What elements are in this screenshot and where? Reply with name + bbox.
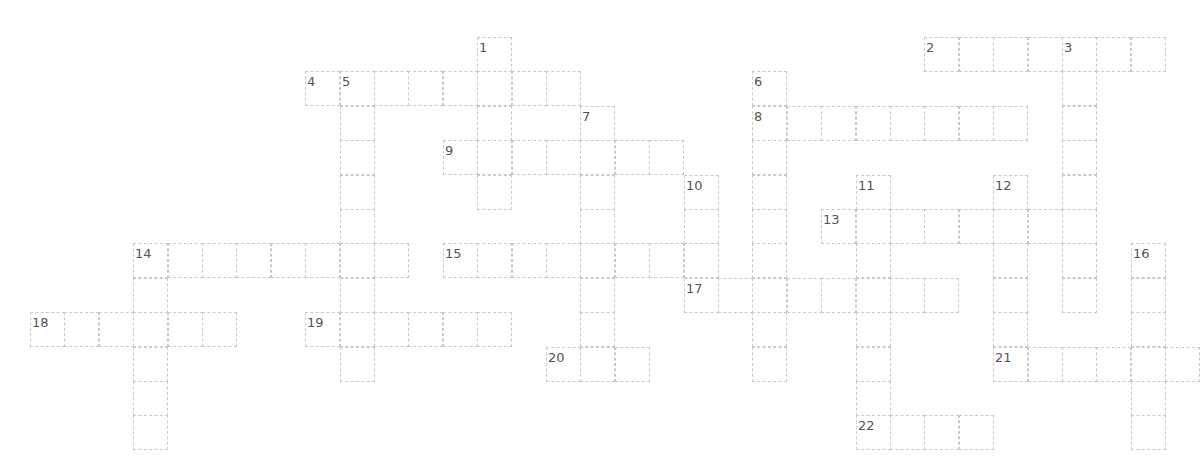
- crossword-cell-input[interactable]: [1063, 279, 1096, 312]
- crossword-cell-input[interactable]: [685, 279, 718, 312]
- crossword-cell-input[interactable]: [960, 107, 993, 140]
- crossword-cell[interactable]: [993, 37, 1028, 72]
- crossword-cell[interactable]: [477, 243, 512, 278]
- crossword-cell[interactable]: [993, 243, 1028, 278]
- crossword-cell[interactable]: [856, 312, 891, 347]
- crossword-cell-input[interactable]: [753, 141, 786, 174]
- crossword-cell-input[interactable]: [753, 176, 786, 209]
- crossword-cell[interactable]: [443, 71, 478, 106]
- crossword-cell[interactable]: [168, 312, 203, 347]
- crossword-cell[interactable]: [1028, 209, 1063, 244]
- crossword-cell-input[interactable]: [616, 141, 649, 174]
- crossword-cell-input[interactable]: [857, 244, 890, 277]
- crossword-cell[interactable]: [718, 278, 753, 313]
- crossword-cell-input[interactable]: [134, 244, 167, 277]
- crossword-cell[interactable]: 18: [30, 312, 65, 347]
- crossword-cell-input[interactable]: [341, 279, 374, 312]
- crossword-cell-input[interactable]: [581, 348, 614, 381]
- crossword-cell[interactable]: 20: [546, 347, 581, 382]
- crossword-cell-input[interactable]: [341, 244, 374, 277]
- crossword-cell[interactable]: [649, 140, 684, 175]
- crossword-cell-input[interactable]: [857, 279, 890, 312]
- crossword-cell[interactable]: [1062, 209, 1097, 244]
- crossword-cell-input[interactable]: [1097, 38, 1130, 71]
- crossword-cell[interactable]: [477, 312, 512, 347]
- crossword-cell-input[interactable]: [547, 72, 580, 105]
- crossword-cell-input[interactable]: [788, 279, 821, 312]
- crossword-cell[interactable]: [477, 106, 512, 141]
- crossword-cell[interactable]: [924, 415, 959, 450]
- crossword-cell[interactable]: [1062, 71, 1097, 106]
- crossword-cell[interactable]: [752, 175, 787, 210]
- crossword-cell[interactable]: [924, 106, 959, 141]
- crossword-cell[interactable]: [1062, 347, 1097, 382]
- crossword-cell-input[interactable]: [822, 279, 855, 312]
- crossword-cell-input[interactable]: [444, 72, 477, 105]
- crossword-cell-input[interactable]: [341, 348, 374, 381]
- crossword-cell-input[interactable]: [925, 416, 958, 449]
- crossword-cell[interactable]: [546, 243, 581, 278]
- crossword-cell[interactable]: [305, 243, 340, 278]
- crossword-cell-input[interactable]: [581, 279, 614, 312]
- crossword-cell[interactable]: [202, 243, 237, 278]
- crossword-cell[interactable]: [856, 347, 891, 382]
- crossword-cell-input[interactable]: [375, 313, 408, 346]
- crossword-cell[interactable]: [236, 243, 271, 278]
- crossword-cell[interactable]: [408, 312, 443, 347]
- crossword-cell[interactable]: [1028, 37, 1063, 72]
- crossword-cell[interactable]: [1062, 278, 1097, 313]
- crossword-cell[interactable]: [408, 71, 443, 106]
- crossword-cell[interactable]: [580, 312, 615, 347]
- crossword-cell-input[interactable]: [1132, 38, 1165, 71]
- crossword-cell[interactable]: 12: [993, 175, 1028, 210]
- crossword-cell[interactable]: [993, 278, 1028, 313]
- crossword-cell[interactable]: [1062, 243, 1097, 278]
- crossword-cell[interactable]: [271, 243, 306, 278]
- crossword-cell[interactable]: [340, 175, 375, 210]
- crossword-cell[interactable]: [133, 312, 168, 347]
- crossword-cell-input[interactable]: [444, 244, 477, 277]
- crossword-cell-input[interactable]: [478, 72, 511, 105]
- crossword-cell-input[interactable]: [994, 348, 1027, 381]
- crossword-cell[interactable]: [856, 381, 891, 416]
- crossword-cell-input[interactable]: [306, 313, 339, 346]
- crossword-cell[interactable]: [821, 278, 856, 313]
- crossword-cell-input[interactable]: [203, 313, 236, 346]
- crossword-cell[interactable]: 21: [993, 347, 1028, 382]
- crossword-cell[interactable]: [512, 71, 547, 106]
- crossword-cell[interactable]: [340, 106, 375, 141]
- crossword-cell-input[interactable]: [341, 141, 374, 174]
- crossword-cell-input[interactable]: [134, 279, 167, 312]
- crossword-cell[interactable]: 5: [340, 71, 375, 106]
- crossword-cell-input[interactable]: [478, 176, 511, 209]
- crossword-cell[interactable]: [580, 175, 615, 210]
- crossword-cell-input[interactable]: [1132, 382, 1165, 415]
- crossword-cell-input[interactable]: [134, 313, 167, 346]
- crossword-cell-input[interactable]: [478, 107, 511, 140]
- crossword-cell[interactable]: [924, 209, 959, 244]
- crossword-cell-input[interactable]: [169, 313, 202, 346]
- crossword-cell-input[interactable]: [1063, 72, 1096, 105]
- crossword-cell[interactable]: [821, 106, 856, 141]
- crossword-cell[interactable]: 15: [443, 243, 478, 278]
- crossword-cell[interactable]: [752, 209, 787, 244]
- crossword-cell-input[interactable]: [857, 348, 890, 381]
- crossword-cell-input[interactable]: [341, 176, 374, 209]
- crossword-cell-input[interactable]: [960, 416, 993, 449]
- crossword-cell[interactable]: 2: [924, 37, 959, 72]
- crossword-cell-input[interactable]: [409, 72, 442, 105]
- crossword-cell-input[interactable]: [891, 416, 924, 449]
- crossword-cell[interactable]: [133, 278, 168, 313]
- crossword-cell[interactable]: [890, 209, 925, 244]
- crossword-cell-input[interactable]: [375, 244, 408, 277]
- crossword-cell[interactable]: [787, 278, 822, 313]
- crossword-cell-input[interactable]: [581, 210, 614, 243]
- crossword-cell-input[interactable]: [581, 176, 614, 209]
- crossword-cell[interactable]: 7: [580, 106, 615, 141]
- crossword-cell-input[interactable]: [306, 244, 339, 277]
- crossword-cell[interactable]: [546, 71, 581, 106]
- crossword-cell[interactable]: [340, 278, 375, 313]
- crossword-cell-input[interactable]: [925, 38, 958, 71]
- crossword-cell-input[interactable]: [925, 279, 958, 312]
- crossword-cell[interactable]: 8: [752, 106, 787, 141]
